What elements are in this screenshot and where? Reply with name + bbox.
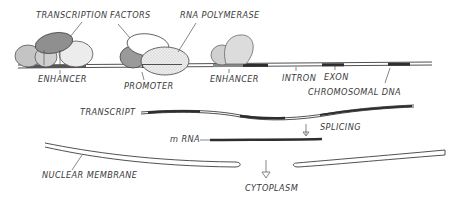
leader-transcription	[70, 22, 82, 37]
label-enhancer-left: ENHANCER	[38, 74, 87, 84]
label-cytoplasm: CYTOPLASM	[245, 183, 298, 193]
label-factors: FACTORS	[110, 10, 151, 20]
label-enhancer-right: ENHANCER	[210, 74, 259, 84]
label-transcript: TRANSCRIPT	[80, 107, 136, 117]
exon-band-2	[322, 63, 344, 66]
mrna-strand	[210, 139, 322, 140]
label-promoter: PROMOTER	[124, 81, 174, 91]
leader-rna-polymerase	[178, 23, 196, 52]
leader-chromosomal-dna	[385, 68, 390, 83]
export-arrow-icon	[262, 160, 270, 178]
nuclear-membrane	[45, 143, 445, 167]
label-mrna: m RNA	[170, 134, 200, 144]
splicing-arrow-icon	[303, 124, 309, 136]
label-transcription: TRANSCRIPTION	[36, 10, 108, 20]
transcript-strand	[141, 105, 414, 120]
transcription-factor-cluster-right	[211, 35, 253, 65]
label-nuclear-membrane: NUCLEAR MEMBRANE	[42, 170, 138, 180]
leader-factors	[118, 24, 130, 38]
leader-nuclear-membrane	[72, 155, 82, 170]
transcription-factor-cluster-left	[15, 29, 93, 67]
exon-band-3	[388, 63, 410, 66]
label-exon: EXON	[324, 72, 349, 82]
gene-expression-diagram: TRANSCRIPTION FACTORS RNA POLYMERASE ENH…	[0, 0, 460, 200]
label-chromosomal-dna: CHROMOSOMAL DNA	[308, 87, 401, 97]
label-rna-polymerase: RNA POLYMERASE	[180, 10, 260, 20]
exon-band-1	[243, 64, 268, 67]
label-splicing: SPLICING	[320, 122, 361, 132]
label-intron: INTRON	[282, 73, 316, 83]
promoter-complex	[120, 31, 189, 75]
